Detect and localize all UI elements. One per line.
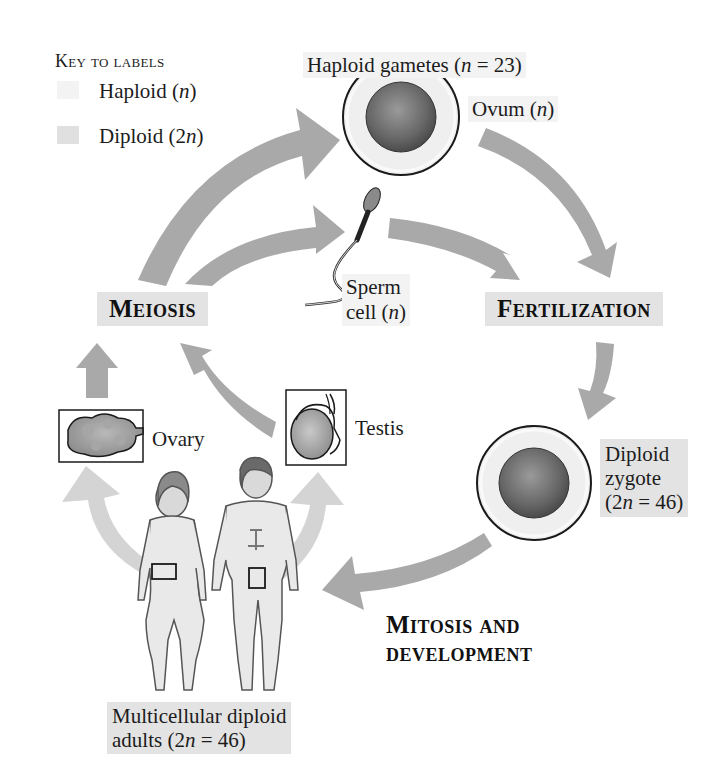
arrow-testis-to-meiosis <box>180 343 276 438</box>
life-cycle-diagram: Key to labels Haploid (n) Diploid (2n) H… <box>0 0 720 769</box>
mitosis-development-label: Mitosis and development <box>386 611 533 667</box>
adults-label: Multicellular diploid adults (2n = 46) <box>107 702 291 754</box>
ovary-illustration <box>59 410 143 462</box>
arrow-ovary-to-meiosis <box>76 343 118 398</box>
testis-illustration <box>286 390 346 465</box>
key-title: Key to labels <box>55 49 164 73</box>
zygote-cell <box>477 426 591 540</box>
arrow-zygote-to-adults <box>322 533 492 610</box>
ovum-label: Ovum (n) <box>468 96 558 122</box>
haploid-gametes-label: Haploid gametes (n = 23) <box>303 52 526 78</box>
diploid-swatch <box>57 126 79 144</box>
ovary-label: Ovary <box>152 427 204 451</box>
fertilization-label: Fertilization <box>485 292 663 326</box>
haploid-swatch <box>57 81 79 99</box>
sperm-label: Sperm cell (n) <box>342 274 410 326</box>
meiosis-label: Meiosis <box>97 292 208 326</box>
arrow-fertilization-to-zygote <box>578 342 616 420</box>
key-diploid-label: Diploid (2n) <box>99 124 203 148</box>
key-haploid-label: Haploid (n) <box>99 79 196 103</box>
arrow-sperm-to-fertilization <box>388 218 520 280</box>
zygote-label: Diploid zygote (2n = 46) <box>600 439 688 517</box>
arrow-meiosis-to-sperm <box>185 205 345 286</box>
diagram-artwork <box>0 0 720 769</box>
testis-label: Testis <box>355 416 404 440</box>
woman-figure <box>138 472 206 690</box>
